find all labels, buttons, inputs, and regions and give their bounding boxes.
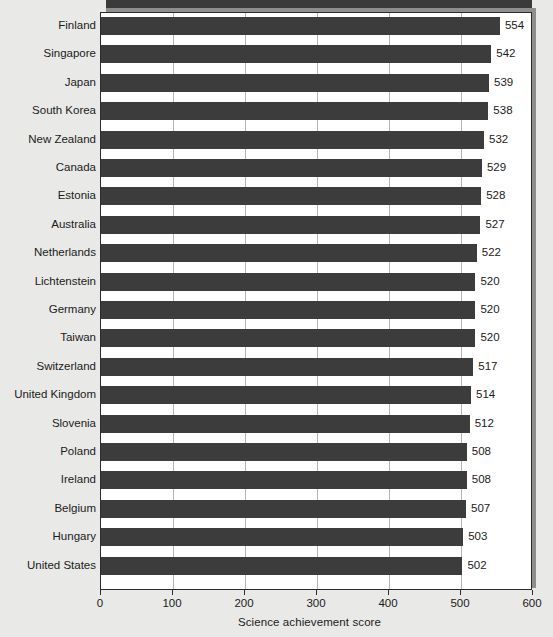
category-label: Finland <box>0 19 96 31</box>
x-tick-label: 0 <box>97 597 103 610</box>
value-label: 502 <box>467 559 486 571</box>
category-label: Canada <box>0 161 96 173</box>
bar <box>101 528 463 546</box>
category-label: Netherlands <box>0 246 96 258</box>
bar <box>101 159 482 177</box>
bar <box>101 386 471 404</box>
bar-row <box>101 524 531 552</box>
value-label: 532 <box>489 133 508 145</box>
x-tick-label: 200 <box>234 597 253 610</box>
bar-row <box>101 439 531 467</box>
category-label: Taiwan <box>0 331 96 343</box>
bar <box>101 187 481 205</box>
x-tick-500 <box>460 590 461 595</box>
bar-row <box>101 382 531 410</box>
x-axis-title: Science achievement score <box>0 616 553 628</box>
category-label: South Korea <box>0 104 96 116</box>
bar <box>101 273 475 291</box>
x-tick-label: 300 <box>306 597 325 610</box>
x-tick-label: 100 <box>162 597 181 610</box>
bar <box>101 471 467 489</box>
category-label: Lichtenstein <box>0 275 96 287</box>
bar-row <box>101 13 531 41</box>
value-label: 522 <box>482 246 501 258</box>
bar <box>101 102 488 120</box>
x-axis-title-text: Science achievement score <box>238 616 381 628</box>
value-label: 538 <box>493 104 512 116</box>
x-tick-600 <box>532 590 533 595</box>
bar-row <box>101 127 531 155</box>
bar-row <box>101 269 531 297</box>
value-label: 507 <box>471 502 490 514</box>
bar <box>101 358 473 376</box>
bar-row <box>101 155 531 183</box>
value-label: 520 <box>480 331 499 343</box>
value-label: 527 <box>485 218 504 230</box>
bar-row <box>101 325 531 353</box>
value-label: 542 <box>496 47 515 59</box>
bar-row <box>101 183 531 211</box>
category-label: Estonia <box>0 189 96 201</box>
bar <box>101 17 500 35</box>
x-tick-200 <box>244 590 245 595</box>
value-label: 512 <box>475 417 494 429</box>
value-label: 529 <box>487 161 506 173</box>
x-tick-100 <box>172 590 173 595</box>
bar <box>101 244 477 262</box>
x-tick-label: 600 <box>522 597 541 610</box>
bar <box>101 74 489 92</box>
category-label: Slovenia <box>0 417 96 429</box>
bar-row <box>101 240 531 268</box>
bar <box>101 443 467 461</box>
category-label: Australia <box>0 218 96 230</box>
x-tick-300 <box>316 590 317 595</box>
category-label: Singapore <box>0 47 96 59</box>
value-label: 554 <box>505 19 524 31</box>
bar-row <box>101 411 531 439</box>
category-label: Switzerland <box>0 360 96 372</box>
value-label: 528 <box>486 189 505 201</box>
category-label: Poland <box>0 445 96 457</box>
category-label: Japan <box>0 76 96 88</box>
bar-row <box>101 70 531 98</box>
value-label: 514 <box>476 388 495 400</box>
x-tick-label: 400 <box>378 597 397 610</box>
category-label: Belgium <box>0 502 96 514</box>
category-label: New Zealand <box>0 133 96 145</box>
x-tick-0 <box>100 590 101 595</box>
bar <box>101 329 475 347</box>
bar <box>101 415 470 433</box>
bar-rows <box>101 13 531 589</box>
category-label: Ireland <box>0 473 96 485</box>
bar <box>101 557 462 575</box>
bar-row <box>101 354 531 382</box>
bar <box>101 301 475 319</box>
value-label: 508 <box>472 473 491 485</box>
value-label: 517 <box>478 360 497 372</box>
plot-area <box>100 12 532 590</box>
x-axis: Science achievement score 01002003004005… <box>0 590 553 637</box>
bar-row <box>101 41 531 69</box>
value-label: 520 <box>480 303 499 315</box>
bar <box>101 500 466 518</box>
bar-row <box>101 496 531 524</box>
value-label: 539 <box>494 76 513 88</box>
category-label: Germany <box>0 303 96 315</box>
bar-row <box>101 297 531 325</box>
science-achievement-bar-chart: FinlandSingaporeJapanSouth KoreaNew Zeal… <box>0 0 553 637</box>
bar <box>101 45 491 63</box>
x-tick-400 <box>388 590 389 595</box>
value-label: 503 <box>468 530 487 542</box>
category-label: Hungary <box>0 530 96 542</box>
value-label: 508 <box>472 445 491 457</box>
bar-row <box>101 98 531 126</box>
bar-row <box>101 212 531 240</box>
x-tick-label: 500 <box>450 597 469 610</box>
value-label: 520 <box>480 275 499 287</box>
bar-row <box>101 467 531 495</box>
category-label: United States <box>0 559 96 571</box>
bar <box>101 216 480 234</box>
bar <box>101 131 484 149</box>
category-label: United Kingdom <box>0 388 96 400</box>
